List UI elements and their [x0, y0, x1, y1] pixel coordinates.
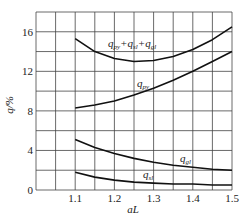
svg-text:1.1: 1.1	[68, 192, 82, 204]
svg-text:12: 12	[22, 65, 33, 77]
label-qpy: qpy	[137, 77, 150, 91]
x-axis-label: aL	[127, 203, 139, 215]
label-qgl: qgl	[180, 152, 191, 166]
svg-text:16: 16	[22, 26, 34, 38]
svg-text:1.5: 1.5	[225, 192, 239, 204]
svg-text:4: 4	[28, 144, 34, 156]
svg-text:8: 8	[28, 105, 34, 117]
svg-text:1.3: 1.3	[147, 192, 161, 204]
chart: 1.11.21.31.41.50481216 aL q/% qpy+qsl+qg…	[0, 0, 243, 217]
svg-text:1.4: 1.4	[186, 192, 200, 204]
y-axis-label: q/%	[3, 96, 15, 114]
svg-text:0: 0	[28, 184, 34, 196]
grid	[36, 12, 232, 190]
axis-ticks: 1.11.21.31.41.50481216	[22, 26, 239, 204]
svg-text:1.2: 1.2	[108, 192, 122, 204]
label-total: qpy+qsl+qgl	[108, 37, 156, 51]
